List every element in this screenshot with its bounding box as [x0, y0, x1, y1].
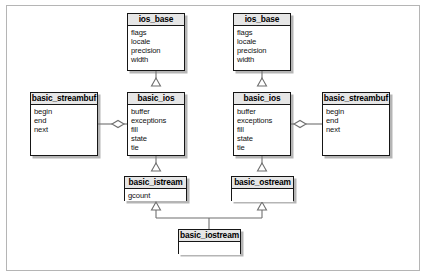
class-title-basic-ostream: basic_ostream [232, 177, 293, 189]
class-title-ios-base-right: ios_base [234, 14, 290, 26]
aggregation-diamond-right [294, 121, 306, 128]
inheritance-triangle-ios-base-left [152, 78, 161, 86]
class-box-basic-ostream[interactable]: basic_ostream [231, 176, 294, 201]
diagram-canvas: ios_base flags locale precision width io… [0, 0, 429, 279]
class-attributes-basic-ostream [232, 189, 293, 202]
class-box-basic-streambuf-right[interactable]: basic_streambuf begin end next [322, 92, 390, 156]
attribute: flags [131, 28, 184, 37]
class-attributes-basic-ios-right: buffer exceptions fill state tie [234, 105, 290, 154]
attribute: fill [237, 125, 290, 134]
class-attributes-basic-iostream [179, 242, 240, 255]
attribute: precision [237, 46, 290, 55]
inheritance-triangle-ostream [258, 202, 267, 210]
attribute: end [34, 116, 97, 125]
class-title-basic-ios-left: basic_ios [128, 93, 184, 105]
attribute: state [237, 134, 290, 143]
class-attributes-basic-streambuf-left: begin end next [31, 105, 97, 135]
class-attributes-basic-streambuf-right: begin end next [323, 105, 389, 135]
class-title-basic-streambuf-right: basic_streambuf [323, 93, 389, 105]
attribute: gcount [128, 191, 186, 200]
inheritance-triangle-ios-base-right [258, 78, 267, 86]
class-title-basic-streambuf-left: basic_streambuf [31, 93, 97, 105]
class-attributes-basic-istream: gcount [125, 189, 186, 201]
class-title-basic-istream: basic_istream [125, 177, 186, 189]
attribute: begin [34, 107, 97, 116]
attribute: next [34, 125, 97, 134]
attribute: fill [131, 125, 184, 134]
attribute: end [326, 116, 389, 125]
class-box-basic-ios-left[interactable]: basic_ios buffer exceptions fill state t… [127, 92, 185, 156]
attribute: flags [237, 28, 290, 37]
attribute: begin [326, 107, 389, 116]
class-title-basic-iostream: basic_iostream [179, 230, 240, 242]
class-box-basic-iostream[interactable]: basic_iostream [178, 229, 241, 254]
inheritance-triangle-basic-ios-left [152, 163, 161, 171]
inheritance-triangle-basic-ios-right [258, 163, 267, 171]
attribute: exceptions [131, 116, 184, 125]
class-attributes-basic-ios-left: buffer exceptions fill state tie [128, 105, 184, 154]
attribute: exceptions [237, 116, 290, 125]
class-box-basic-streambuf-left[interactable]: basic_streambuf begin end next [30, 92, 98, 156]
class-box-basic-istream[interactable]: basic_istream gcount [124, 176, 187, 201]
attribute: state [131, 134, 184, 143]
class-title-basic-ios-right: basic_ios [234, 93, 290, 105]
attribute: buffer [237, 107, 290, 116]
class-title-ios-base-left: ios_base [128, 14, 184, 26]
attribute: locale [237, 37, 290, 46]
attribute: next [326, 125, 389, 134]
attribute: precision [131, 46, 184, 55]
class-box-ios-base-right[interactable]: ios_base flags locale precision width [233, 13, 291, 71]
class-attributes-ios-base-left: flags locale precision width [128, 26, 184, 65]
attribute: buffer [131, 107, 184, 116]
attribute: locale [131, 37, 184, 46]
class-attributes-ios-base-right: flags locale precision width [234, 26, 290, 65]
inheritance-triangle-istream [152, 202, 161, 210]
aggregation-diamond-left [112, 121, 124, 128]
attribute: width [131, 55, 184, 64]
attribute: width [237, 55, 290, 64]
attribute: tie [131, 143, 184, 152]
attribute: tie [237, 143, 290, 152]
class-box-ios-base-left[interactable]: ios_base flags locale precision width [127, 13, 185, 71]
class-box-basic-ios-right[interactable]: basic_ios buffer exceptions fill state t… [233, 92, 291, 156]
